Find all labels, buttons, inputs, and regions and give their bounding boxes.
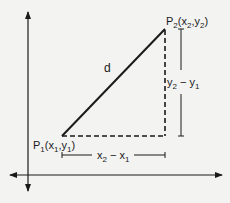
distance-line [62, 29, 165, 136]
dy-label: y2 − y1 [167, 76, 200, 91]
distance-formula-diagram: d P2(x2,y2) P1(x1,y1) y2 − y1 x2 − x1 [0, 0, 230, 203]
p1-label: P1(x1,y1) [33, 139, 75, 154]
p2-label: P2(x2,y2) [166, 15, 208, 30]
dx-label: x2 − x1 [97, 149, 130, 164]
distance-label: d [104, 61, 111, 75]
